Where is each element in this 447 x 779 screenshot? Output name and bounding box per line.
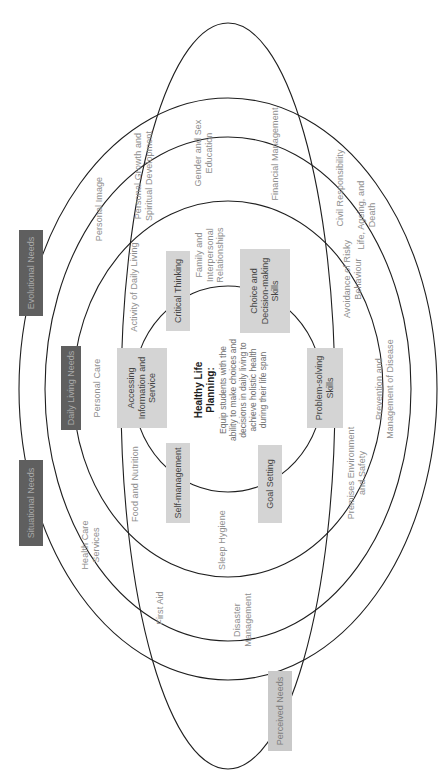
choice-decision-making: Choice and Decision-making Skills — [240, 249, 290, 333]
diagram-page: Healthy Life Planning: Equip students wi… — [0, 0, 447, 779]
health-care-services: Health Care Services — [80, 520, 101, 569]
activity-of-daily-living: Activity of Daily Living — [129, 242, 140, 331]
avoidance-risky-behaviour: Avoidance of Risky Behaviour — [342, 240, 363, 318]
problem-solving-skills: Problem-solving Skills — [307, 348, 343, 428]
family-interpersonal: Family and Interpersonal Relationships — [194, 227, 226, 282]
critical-thinking: Critical Thinking — [166, 251, 190, 331]
healthy-life-planning-diagram: Healthy Life Planning: Equip students wi… — [0, 0, 447, 779]
prevention-management-disease: Prevention and Management of Disease — [374, 339, 395, 439]
disaster-management: Disaster Management — [232, 593, 253, 647]
center-title: Healthy Life Planning: — [193, 336, 216, 444]
accessing-information-and-service: Accessing Information and Service — [117, 348, 167, 428]
center-body: Equip students with the ability to make … — [218, 336, 268, 444]
first-aid: First Aid — [155, 591, 166, 624]
civil-responsibility: Civil Responsibility — [335, 149, 346, 226]
financial-management: Financial Management — [270, 107, 281, 200]
center-text-block: Healthy Life Planning: Equip students wi… — [193, 336, 268, 444]
daily-living-needs-label: Daily Living Needs — [61, 346, 81, 430]
situational-needs-label: Situational Needs — [19, 460, 43, 546]
gender-and-sex-education: Gender and Sex Education — [193, 120, 214, 187]
personal-image: Personal Image — [94, 177, 105, 241]
premises-environment: Premises Environment and Safety — [346, 427, 367, 520]
personal-growth-spiritual: Personal Growth and Spiritual Developmen… — [133, 131, 154, 221]
perceived-needs-label: Perceived Needs — [268, 671, 292, 751]
self-management: Self-management — [166, 443, 190, 523]
personal-care: Personal Care — [92, 359, 103, 418]
goal-setting: Goal Setting — [258, 445, 282, 523]
evolutional-needs-label: Evolutional Needs — [19, 230, 43, 316]
sleep-hygiene: Sleep Hygiene — [217, 510, 228, 570]
food-and-nutrition: Food and Nutrition — [130, 446, 141, 522]
